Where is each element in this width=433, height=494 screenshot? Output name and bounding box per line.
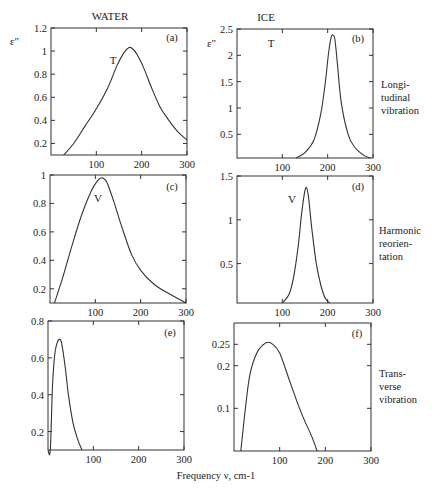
x-tick-label: 200 <box>131 454 147 465</box>
x-tick-label: 200 <box>134 159 150 170</box>
row-label-transverse: Trans- verse vibration <box>379 368 418 405</box>
y-axis-symbol-water: ε" <box>10 35 19 47</box>
y-tick-label: 0.6 <box>31 353 44 364</box>
y-tick-label: 0.5 <box>220 129 233 140</box>
row-label-harmonic: Harmonic reorien- tation <box>379 225 421 262</box>
x-tick-label: 200 <box>133 307 149 318</box>
data-curve <box>64 47 187 155</box>
x-tick-label: 200 <box>320 307 336 318</box>
x-tick-label: 100 <box>88 159 104 170</box>
y-tick-label: 0.1 <box>217 403 230 414</box>
column-title-water: WATER <box>92 10 129 22</box>
data-curve <box>296 35 371 158</box>
svg-text:reorien-: reorien- <box>379 238 413 249</box>
y-tick-label: 0.25 <box>212 339 230 350</box>
panel-e: 1002003000.20.40.60.8(e) <box>31 316 192 465</box>
x-tick-label: 300 <box>365 307 381 318</box>
y-tick-label: 1.5 <box>220 77 233 88</box>
y-tick-label: 0.2 <box>217 361 230 372</box>
svg-text:Harmonic: Harmonic <box>379 225 421 236</box>
y-tick-label: 0.2 <box>33 284 46 295</box>
y-tick-label: 0.4 <box>33 255 47 266</box>
x-tick-label: 100 <box>85 454 101 465</box>
y-tick-label: 1 <box>228 215 233 226</box>
svg-text:Longi-: Longi- <box>381 79 410 90</box>
plot-frame <box>50 175 186 303</box>
peak-label: V <box>94 192 102 204</box>
x-tick-label: 300 <box>179 159 195 170</box>
x-tick-label: 100 <box>274 162 290 173</box>
y-tick-label: 2.5 <box>220 24 233 35</box>
x-tick-label: 100 <box>274 307 290 318</box>
x-axis-label: Frequency ν, cm-1 <box>177 470 256 481</box>
data-curve <box>48 339 82 454</box>
y-tick-label: 0.2 <box>34 138 47 149</box>
peak-label: V <box>288 193 296 205</box>
x-tick-label: 100 <box>87 307 103 318</box>
y-tick-label: 0.4 <box>31 390 45 401</box>
x-tick-label: 300 <box>365 162 381 173</box>
panel-label: (c) <box>166 181 178 193</box>
y-tick-label: 2 <box>228 50 233 61</box>
panel-b: 1002003000.511.522.5(b)T <box>220 24 381 173</box>
y-tick-label: 0.8 <box>34 69 47 80</box>
panel-label: (f) <box>352 328 363 340</box>
y-axis-symbol-ice: ε" <box>207 37 216 49</box>
x-tick-label: 300 <box>176 454 192 465</box>
panel-label: (e) <box>164 327 176 339</box>
y-tick-label: 0.6 <box>33 227 46 238</box>
panel-label: (b) <box>352 33 365 45</box>
peak-label: T <box>268 37 275 49</box>
x-tick-label: 200 <box>317 455 333 466</box>
y-tick-label: 1 <box>42 46 47 57</box>
y-tick-label: 0.8 <box>33 198 46 209</box>
y-tick-label: 1.5 <box>220 171 233 182</box>
panel-label: (d) <box>352 181 365 193</box>
row-label-longitudinal: Longi- tudinal vibration <box>381 79 420 116</box>
y-tick-label: 1 <box>228 103 233 114</box>
plot-frame <box>237 176 373 303</box>
data-curve <box>241 342 317 451</box>
panel-d: 1002003000.511.5(d)V <box>220 171 381 318</box>
panel-a: 1002003000.20.40.60.811.2(a)T <box>34 23 195 170</box>
y-tick-label: 1 <box>41 170 46 181</box>
x-tick-label: 100 <box>272 455 288 466</box>
y-tick-label: 0.5 <box>220 259 233 270</box>
y-tick-label: 0.8 <box>31 316 44 327</box>
y-tick-label: 0.6 <box>34 92 47 103</box>
column-title-ice: ICE <box>257 11 275 23</box>
plot-frame <box>234 323 371 451</box>
svg-text:tudinal: tudinal <box>381 92 410 103</box>
svg-text:vibration: vibration <box>381 105 420 116</box>
svg-text:verse: verse <box>379 381 401 392</box>
peak-label: T <box>110 54 117 66</box>
plot-frame <box>51 28 187 155</box>
x-tick-label: 200 <box>320 162 336 173</box>
svg-text:vibration: vibration <box>379 394 418 405</box>
plot-frame <box>237 29 373 158</box>
panel-label: (a) <box>166 32 178 44</box>
data-curve <box>55 178 187 303</box>
y-tick-label: 1.2 <box>34 23 47 34</box>
panel-c: 1002003000.20.40.60.81(c)V <box>33 170 194 318</box>
y-tick-label: 0.2 <box>31 427 44 438</box>
y-tick-label: 0.4 <box>34 115 48 126</box>
svg-text:tation: tation <box>379 251 404 262</box>
plot-frame <box>48 321 184 450</box>
figure: WATER ICE ε" ε" 1002003000.20.40.60.811.… <box>0 0 433 494</box>
x-tick-label: 300 <box>363 455 379 466</box>
svg-text:Trans-: Trans- <box>379 368 407 379</box>
panel-f: 1002003000.10.20.25(f) <box>212 323 379 466</box>
x-tick-label: 300 <box>178 307 194 318</box>
